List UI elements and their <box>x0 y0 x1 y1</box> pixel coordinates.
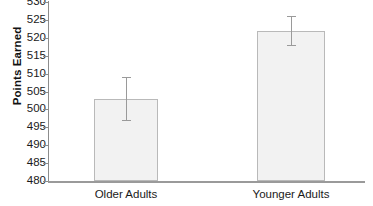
error-bar <box>287 16 296 45</box>
error-bar <box>122 77 131 120</box>
x-axis-category-label: Older Adults <box>66 188 186 200</box>
bar <box>257 31 325 181</box>
y-axis-tick-label: 490 <box>0 139 46 151</box>
y-axis-tick-label: 500 <box>0 103 46 115</box>
y-axis-tick-label: 520 <box>0 32 46 44</box>
error-bar-stem <box>291 16 292 45</box>
error-bar-cap-upper <box>122 77 131 78</box>
bar-chart: Points Earned 53052552051551050550049549… <box>0 0 373 206</box>
y-axis-tick-label: 515 <box>0 50 46 62</box>
y-axis-line <box>48 1 49 182</box>
error-bar-cap-lower <box>122 120 131 121</box>
y-axis-tick-label: 510 <box>0 68 46 80</box>
y-axis-tick-label: 495 <box>0 121 46 133</box>
x-axis-line <box>48 181 365 183</box>
y-axis-tick-label: 530 <box>0 0 46 8</box>
y-axis-tick-label: 480 <box>0 175 46 187</box>
error-bar-stem <box>126 77 127 120</box>
x-axis-category-label: Younger Adults <box>226 188 356 200</box>
error-bar-cap-lower <box>287 45 296 46</box>
y-axis-tick-label: 525 <box>0 14 46 26</box>
error-bar-cap-upper <box>287 16 296 17</box>
y-axis-tick-label: 505 <box>0 86 46 98</box>
y-axis-tick-labels: 530525520515510505500495490485480 <box>0 0 46 206</box>
y-axis-tick-label: 485 <box>0 157 46 169</box>
